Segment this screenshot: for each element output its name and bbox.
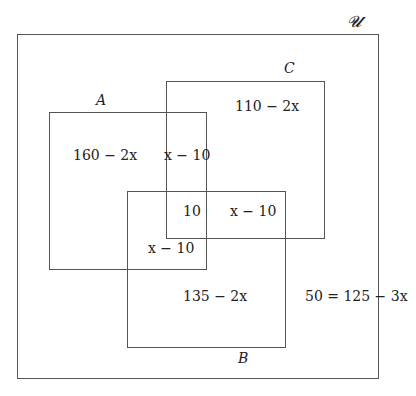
region-a-c: x − 10 <box>164 147 210 163</box>
set-c-label: C <box>284 60 295 76</box>
region-outside: 50 = 125 − 3x <box>305 288 408 304</box>
region-a-b: x − 10 <box>148 240 194 256</box>
region-a-only: 160 − 2x <box>73 147 137 163</box>
region-b-c: x − 10 <box>230 203 276 219</box>
set-a-label: A <box>96 92 106 108</box>
universe-label: 𝓤 <box>347 12 361 31</box>
set-b-label: B <box>238 350 248 366</box>
region-b-only: 135 − 2x <box>183 288 247 304</box>
region-a-b-c: 10 <box>183 203 201 219</box>
region-c-only: 110 − 2x <box>235 98 299 114</box>
